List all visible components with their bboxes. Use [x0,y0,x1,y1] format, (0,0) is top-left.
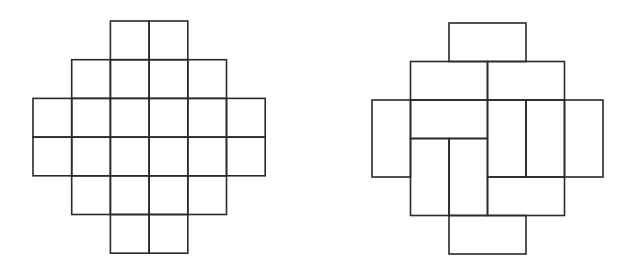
horizontal-domino [488,62,565,101]
vertical-domino [449,139,488,216]
grid-cell [72,137,111,176]
grid-cell [110,215,149,254]
grid-cell [149,176,188,215]
aztec-diamond-figure [0,0,634,272]
aztec-diamond-grid [33,21,265,253]
grid-cell [33,98,72,137]
horizontal-domino [411,62,488,101]
vertical-domino [411,139,450,216]
grid-cell [110,176,149,215]
grid-cell [149,98,188,137]
grid-cell [110,98,149,137]
horizontal-domino [449,216,526,255]
grid-cell [149,60,188,99]
grid-cell [110,137,149,176]
grid-cell [149,137,188,176]
horizontal-domino [449,23,526,62]
grid-cell [72,176,111,215]
grid-cell [110,21,149,60]
grid-cell [149,21,188,60]
vertical-domino [565,100,604,177]
grid-cell [188,176,227,215]
horizontal-domino [488,177,565,216]
grid-cell [188,137,227,176]
grid-cell [188,60,227,99]
vertical-domino [372,100,411,177]
grid-cell [188,98,227,137]
grid-cell [149,215,188,254]
grid-cell [72,98,111,137]
grid-cell [72,60,111,99]
grid-cell [110,60,149,99]
vertical-domino [526,100,565,177]
domino-tiling [372,23,603,254]
grid-cell [33,137,72,176]
grid-cell [227,137,266,176]
vertical-domino [488,100,527,177]
horizontal-domino [411,100,488,139]
grid-cell [227,98,266,137]
